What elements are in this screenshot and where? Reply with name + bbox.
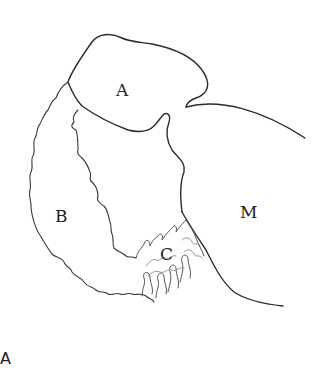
label-m: M [240,202,257,222]
label-a: A [115,80,129,100]
label-c: C [160,244,173,264]
region-a-outline [68,35,208,212]
diagram-figure: A B C M A [0,0,324,371]
panel-label: A [0,349,11,368]
region-b-outer-edge [29,82,154,302]
region-b-inner-edge [72,110,136,258]
label-b: B [55,206,68,226]
